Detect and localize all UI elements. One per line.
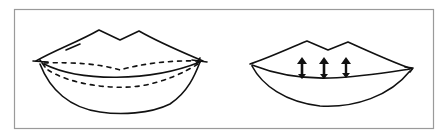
diagram-canvas bbox=[0, 0, 446, 140]
lips-diagram bbox=[0, 0, 446, 140]
figure-frame bbox=[15, 10, 434, 129]
